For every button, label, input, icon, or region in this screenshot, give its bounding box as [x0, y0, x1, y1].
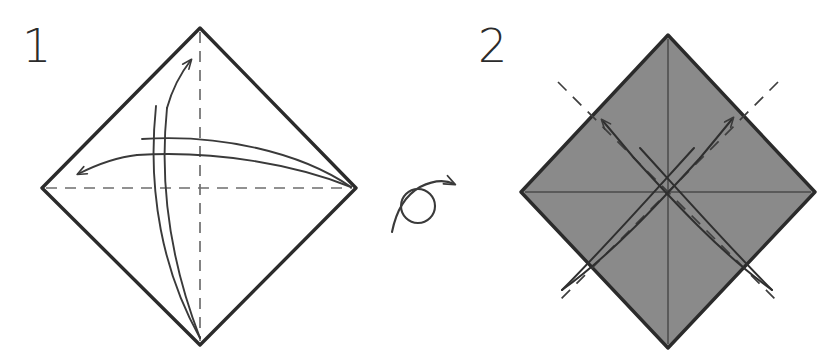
paper-sheet-white: [42, 28, 356, 345]
step-2-group: 2: [478, 19, 815, 348]
step-1-group: 1: [22, 19, 356, 345]
origami-diagram-page: 1 2: [0, 0, 821, 353]
step-number-2: 2: [478, 19, 507, 73]
turn-over-symbol: [392, 181, 454, 232]
step-number-1: 1: [22, 19, 51, 73]
turn-over-loop: [401, 189, 435, 223]
diagram-canvas: 1 2: [0, 0, 821, 353]
